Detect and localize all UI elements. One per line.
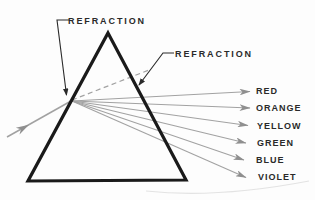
spectrum-ray-violet — [72, 101, 246, 178]
refraction-callout-right-leader — [139, 53, 174, 85]
spectrum-label-red: RED — [256, 86, 278, 96]
spectrum-label-orange: ORANGE — [256, 103, 302, 113]
incident-ray-arrowhead-icon — [16, 121, 31, 134]
diagram-svg: REFRACTION REFRACTION RED ORANGE YELLOW … — [0, 0, 315, 200]
scan-artifact-curve — [146, 181, 309, 193]
spectrum-labels: RED ORANGE YELLOW GREEN BLUE VIOLET — [256, 86, 302, 182]
spectrum-label-violet: VIOLET — [258, 172, 297, 182]
refraction-label-right: REFRACTION — [175, 49, 253, 59]
prism-dispersion-diagram: REFRACTION REFRACTION RED ORANGE YELLOW … — [0, 0, 315, 200]
prism-triangle — [28, 33, 186, 181]
spectrum-label-green: GREEN — [257, 138, 294, 148]
spectrum-ray-red — [72, 92, 250, 102]
undeviated-path-dashed-line — [72, 70, 149, 100]
refraction-label-left: REFRACTION — [68, 16, 146, 26]
spectrum-label-blue: BLUE — [256, 155, 285, 165]
refraction-callout-left-leader — [57, 20, 69, 95]
spectrum-label-yellow: YELLOW — [257, 121, 302, 131]
